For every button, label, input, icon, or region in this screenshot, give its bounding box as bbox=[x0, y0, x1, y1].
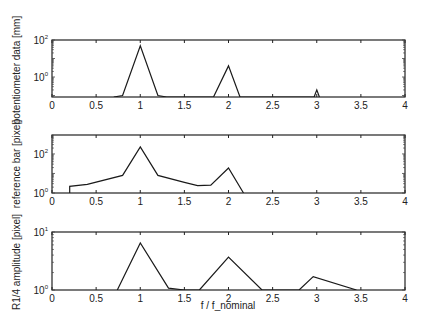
x-tick-label: 1 bbox=[137, 293, 143, 304]
subplot-reference-bar: 00.511.522.533.54100102reference bar [pi… bbox=[11, 120, 408, 209]
x-tick-label: 0.5 bbox=[89, 293, 103, 304]
x-tick-label: 3.5 bbox=[354, 293, 368, 304]
y-tick-label: 100 bbox=[34, 187, 49, 199]
subplot-potentiometer: 00.511.522.533.54100102potentiometer dat… bbox=[11, 16, 408, 125]
data-line bbox=[117, 243, 356, 290]
x-tick-label: 2 bbox=[226, 100, 232, 111]
x-tick-label: 1.5 bbox=[177, 293, 191, 304]
x-tick-label: 3 bbox=[314, 100, 320, 111]
x-tick-label: 2 bbox=[226, 196, 232, 207]
y-axis-label: R1/4 amplitude [pixel] bbox=[11, 214, 22, 310]
x-tick-label: 4 bbox=[402, 293, 408, 304]
x-tick-label: 3.5 bbox=[354, 196, 368, 207]
x-tick-label: 4 bbox=[402, 100, 408, 111]
axes-frame bbox=[52, 40, 405, 97]
figure: 00.511.522.533.54100102potentiometer dat… bbox=[0, 0, 429, 329]
y-tick-label: 102 bbox=[34, 34, 49, 46]
x-tick-label: 1 bbox=[137, 100, 143, 111]
x-tick-label: 3 bbox=[314, 196, 320, 207]
x-axis-label: f / f_nominal bbox=[201, 300, 255, 311]
x-tick-label: 1.5 bbox=[177, 196, 191, 207]
x-tick-label: 0 bbox=[49, 293, 55, 304]
y-axis-label: potentiometer data [mm] bbox=[11, 16, 22, 125]
x-tick-label: 0 bbox=[49, 196, 55, 207]
y-axis-label: reference bar [pixel] bbox=[11, 120, 22, 209]
x-tick-label: 4 bbox=[402, 196, 408, 207]
x-tick-label: 2.5 bbox=[266, 196, 280, 207]
x-tick-label: 2.5 bbox=[266, 293, 280, 304]
x-tick-label: 0.5 bbox=[89, 100, 103, 111]
x-tick-label: 3.5 bbox=[354, 100, 368, 111]
x-tick-label: 1 bbox=[137, 196, 143, 207]
data-line bbox=[70, 147, 244, 193]
x-tick-label: 2.5 bbox=[266, 100, 280, 111]
x-tick-label: 0.5 bbox=[89, 196, 103, 207]
subplot-r14-amplitude: 00.511.522.533.54100101R1/4 amplitude [p… bbox=[11, 214, 408, 310]
y-tick-label: 100 bbox=[34, 71, 49, 83]
axes-frame bbox=[52, 135, 405, 193]
y-tick-label: 102 bbox=[34, 148, 49, 160]
x-tick-label: 0 bbox=[49, 100, 55, 111]
y-tick-label: 100 bbox=[34, 284, 49, 296]
data-line bbox=[114, 46, 320, 97]
y-tick-label: 101 bbox=[34, 226, 49, 238]
x-tick-label: 1.5 bbox=[177, 100, 191, 111]
x-tick-label: 3 bbox=[314, 293, 320, 304]
axes-frame bbox=[52, 232, 405, 290]
